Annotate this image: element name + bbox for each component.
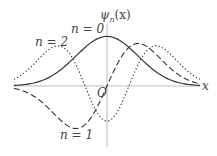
label-n1: n = 1 — [60, 128, 93, 142]
plot-canvas: ψn(x) x O n = 0 n = 2 n = 1 — [0, 0, 217, 156]
label-n2: n = 2 — [35, 35, 68, 49]
x-axis-label: x — [202, 79, 209, 93]
wavefunction-plot: ψn(x) x O n = 0 n = 2 n = 1 — [0, 0, 217, 156]
origin-label: O — [97, 86, 107, 100]
y-axis-label: ψn(x) — [100, 8, 131, 24]
label-n0: n = 0 — [71, 22, 104, 36]
